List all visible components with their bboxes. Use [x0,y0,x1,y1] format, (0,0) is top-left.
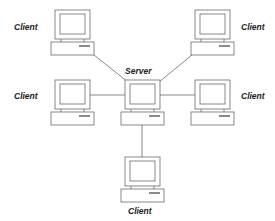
network-diagram [0,0,275,221]
edge-server-top-left [94,55,128,82]
computer-icon-client-top-right [191,10,234,55]
label-client-top-right: Client [241,22,265,32]
computer-icon-client-middle-left [51,80,94,125]
label-client-bottom: Client [128,206,152,216]
label-client-middle-left: Client [14,91,38,101]
label-server: Server [125,66,151,76]
label-client-middle-right: Client [241,91,265,101]
computer-icon-server [121,80,164,125]
computer-icon-client-bottom [121,157,164,202]
computer-icon-client-top-left [51,10,94,55]
edge-server-top-right [159,55,192,82]
label-client-top-left: Client [14,22,38,32]
computer-icon-client-middle-right [191,80,234,125]
